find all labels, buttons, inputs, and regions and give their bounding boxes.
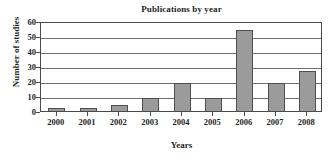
bar (205, 98, 222, 112)
gridline (41, 68, 321, 69)
x-axis-label: Years (40, 140, 323, 150)
x-axis-tick-labels: 200020012002200320042005200620072008 (40, 117, 322, 131)
x-axis-tick-mark (275, 112, 276, 116)
bar (48, 108, 65, 111)
bar (174, 83, 191, 112)
plot-area (40, 22, 322, 112)
x-axis-tick-mark (244, 112, 245, 116)
bar (111, 105, 128, 111)
x-axis-tick-mark (212, 112, 213, 116)
bar (142, 98, 159, 112)
x-axis-tick-mark (306, 112, 307, 116)
x-axis-tick-label: 2008 (286, 117, 326, 128)
x-axis-tick-mark (87, 112, 88, 116)
bar (80, 108, 97, 111)
x-axis-tick-mark (181, 112, 182, 116)
bar-chart-figure: Publications by year Number of studies 0… (0, 0, 332, 162)
bar (299, 71, 316, 112)
gridline (41, 38, 321, 39)
y-axis-tick-marks (0, 22, 40, 112)
x-axis-tick-mark (56, 112, 57, 116)
x-axis-tick-mark (118, 112, 119, 116)
bar (268, 83, 285, 112)
bar (236, 30, 253, 111)
chart-title: Publications by year (40, 4, 323, 15)
gridline (41, 53, 321, 54)
x-axis-tick-mark (150, 112, 151, 116)
